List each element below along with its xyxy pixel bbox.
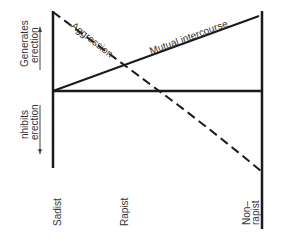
category-sadist: Sadist <box>52 198 63 226</box>
category-non-rapist-line2: rapist <box>250 201 261 225</box>
generates-label-line2: erection <box>29 27 40 63</box>
category-rapist: Rapist <box>119 198 130 226</box>
inhibits-label-line2: erection <box>29 104 40 140</box>
arrow-down-head-icon <box>38 149 42 155</box>
